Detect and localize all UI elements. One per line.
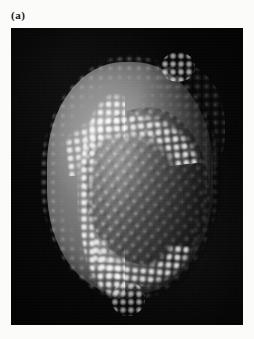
virus-capsid-particle [33,46,227,308]
panel-label: (a) [11,8,26,22]
image-plate [11,28,243,325]
capsomere-lattice [76,101,218,273]
figure-panel: (a) [0,0,254,339]
lattice-shading [76,101,218,273]
